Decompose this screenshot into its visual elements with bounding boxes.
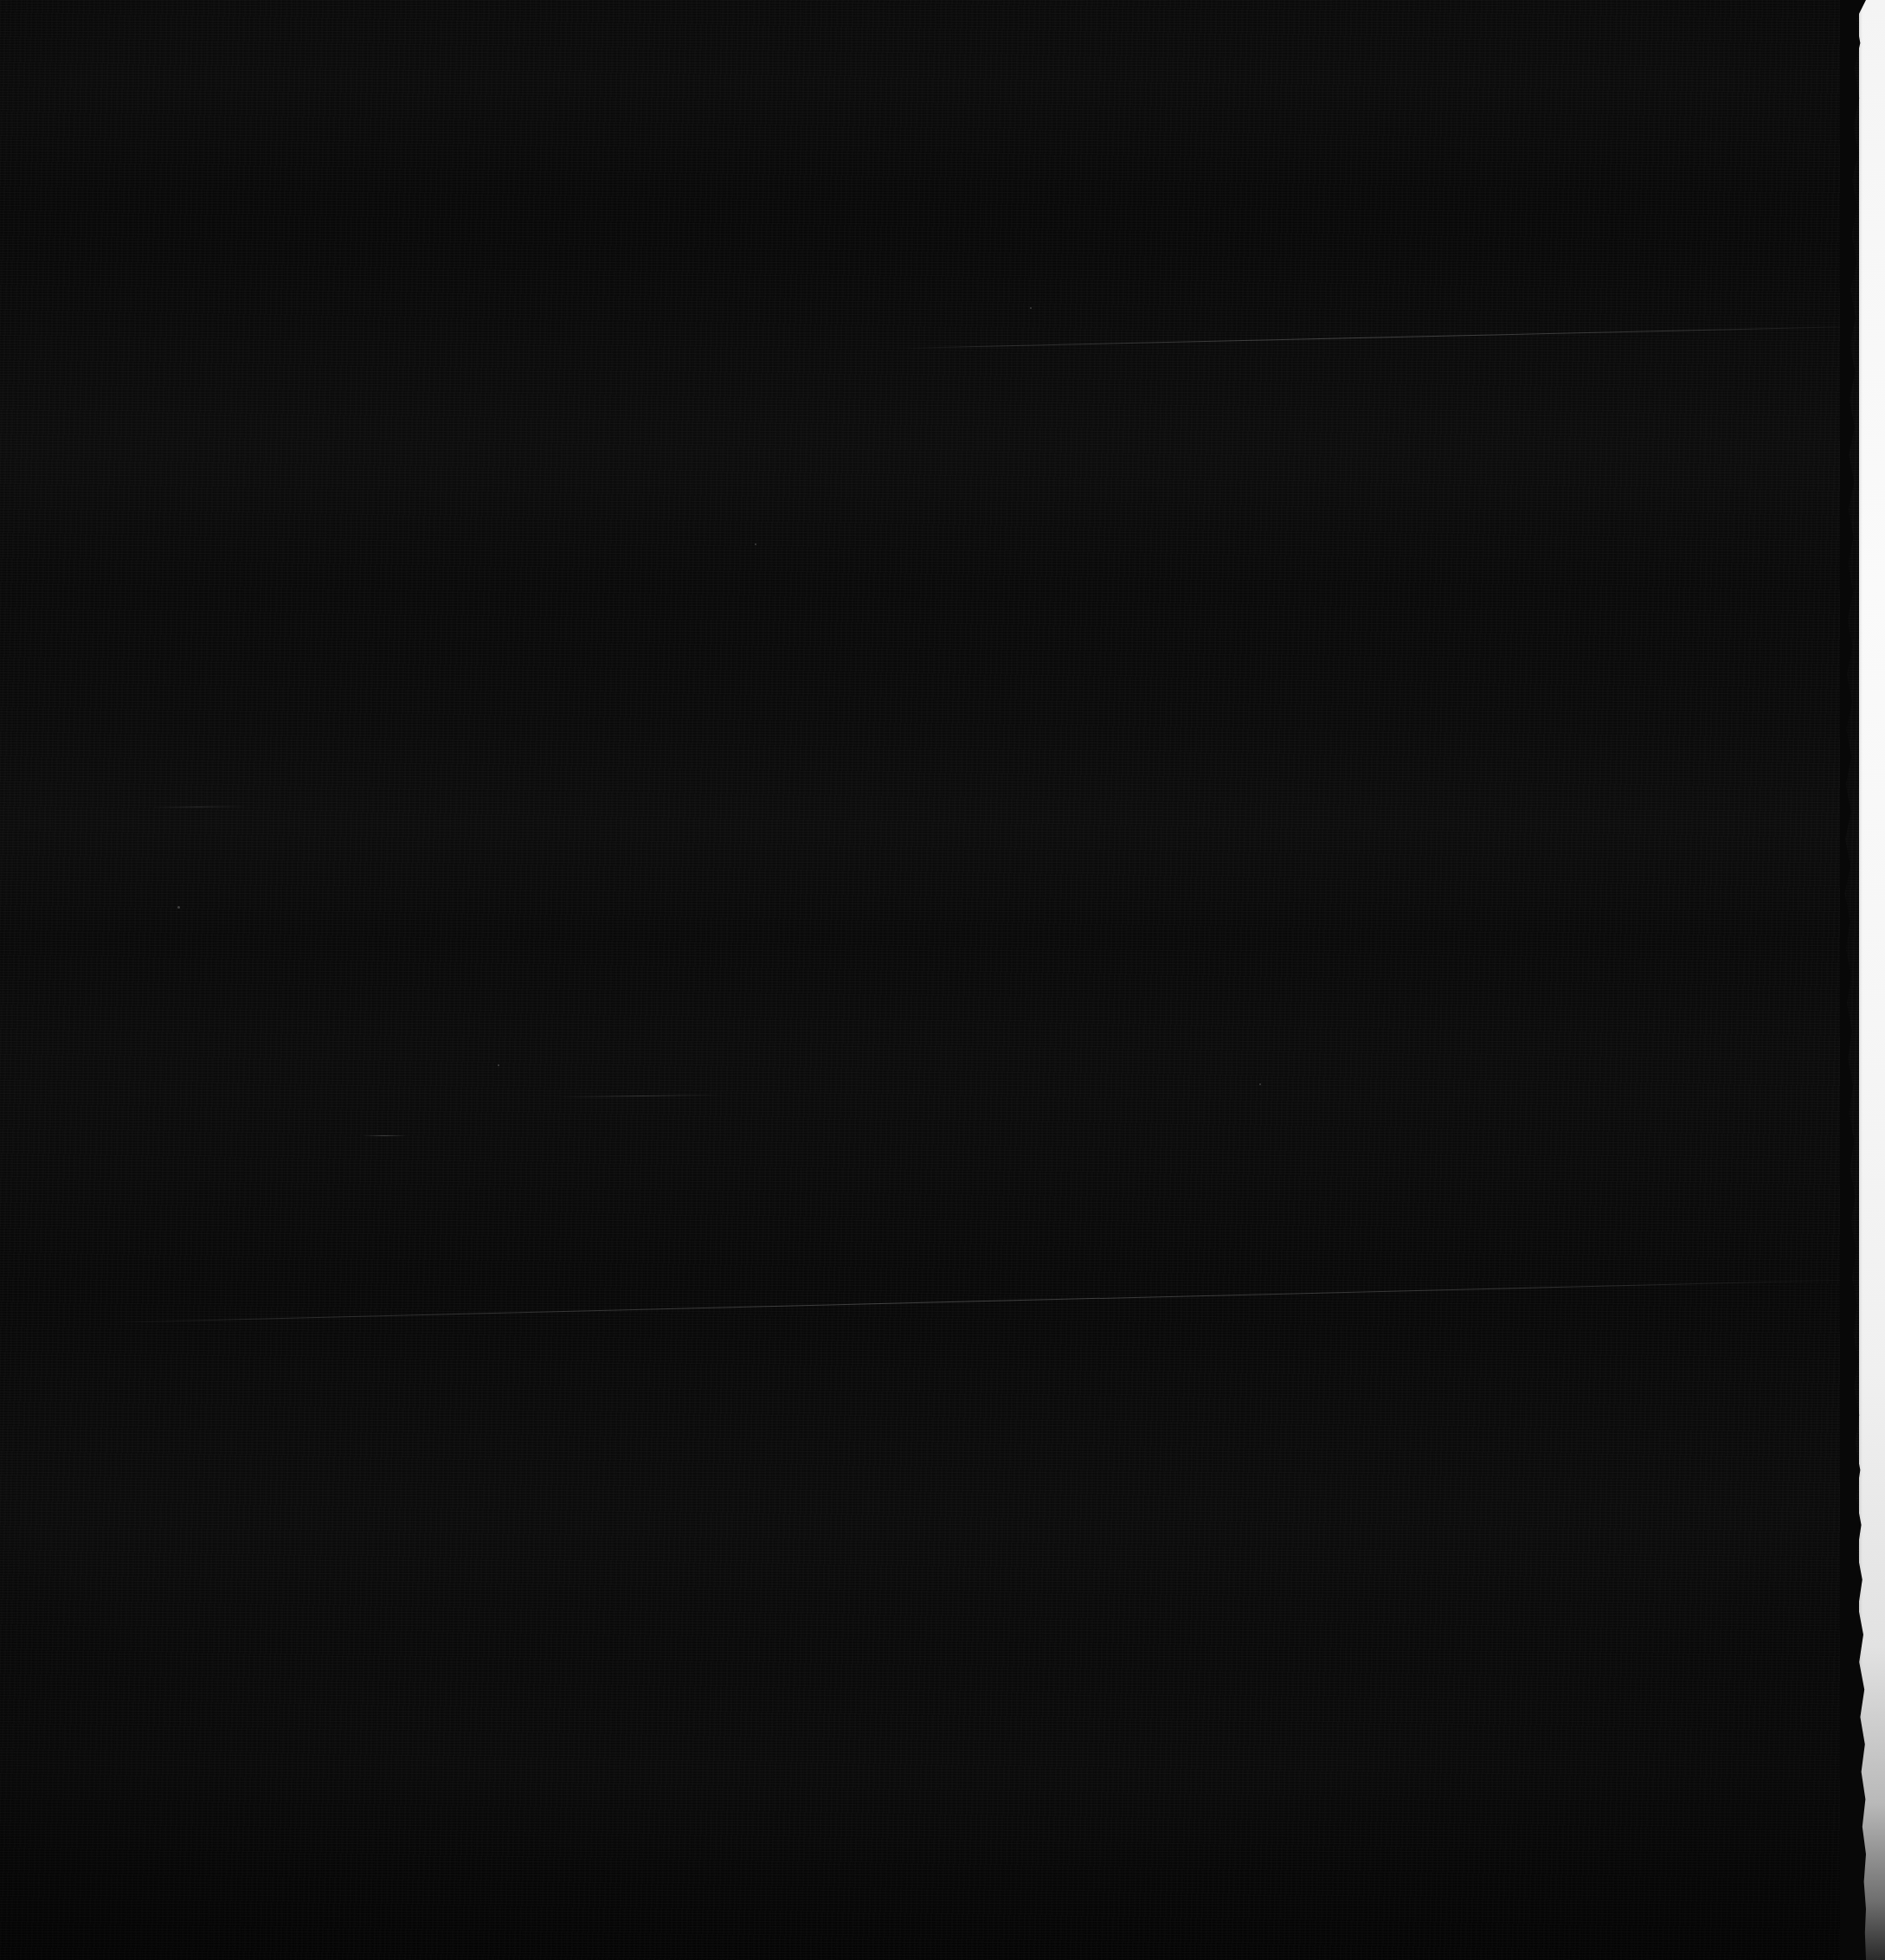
film-scratch-upper	[900, 326, 1869, 349]
film-scratch-short-b	[362, 1135, 407, 1136]
dust-speck	[498, 1064, 499, 1066]
dust-speck	[1030, 307, 1032, 309]
dust-speck	[1259, 1083, 1261, 1085]
dust-speck	[177, 906, 180, 909]
vignette-overlay	[0, 0, 1885, 1960]
film-frame-canvas	[0, 0, 1885, 1960]
dust-speck	[755, 543, 756, 545]
film-scratch-short-a	[558, 1095, 723, 1097]
dust-speck-layer	[0, 0, 1885, 1960]
film-grain-overlay	[0, 0, 1885, 1960]
film-scratch-short-c	[151, 806, 247, 808]
film-border-strip	[1859, 0, 1885, 1960]
film-scratch-lower	[104, 1279, 1869, 1323]
scanline-texture-overlay	[0, 0, 1885, 1960]
